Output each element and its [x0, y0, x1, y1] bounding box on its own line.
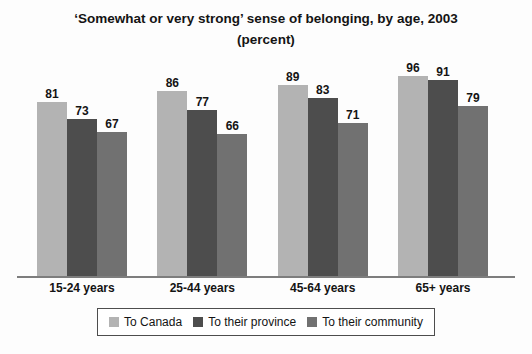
legend-label: To Canada [124, 315, 182, 329]
legend-item-to-their-province: To their province [193, 315, 296, 329]
legend-item-to-their-community: To their community [307, 315, 423, 329]
bar-to-their-community-65-years [458, 106, 488, 276]
legend-label: To their province [208, 315, 296, 329]
bar-slot-to-their-province: 73 [67, 61, 97, 276]
chart-title: ‘Somewhat or very strong’ sense of belon… [0, 8, 532, 29]
bar-slot-to-canada: 81 [37, 61, 67, 276]
bar-value-label: 77 [196, 95, 209, 109]
chart-container: ‘Somewhat or very strong’ sense of belon… [0, 0, 532, 354]
bar-groups-row: 817367867766898371969179 [0, 61, 532, 276]
legend: To CanadaTo their provinceTo their commu… [97, 308, 435, 336]
plot-area: 817367867766898371969179 15-24 years25-4… [0, 61, 532, 295]
category-label-45-64-years: 45-64 years [278, 281, 368, 295]
bar-value-label: 66 [226, 119, 239, 133]
legend-swatch-icon [193, 317, 203, 327]
bar-group-15-24-years: 817367 [37, 61, 127, 276]
bar-slot-to-canada: 86 [157, 61, 187, 276]
category-label-65-years: 65+ years [398, 281, 488, 295]
bar-slot-to-their-province: 91 [428, 61, 458, 276]
bar-slot-to-canada: 89 [278, 61, 308, 276]
bar-value-label: 67 [105, 117, 118, 131]
bar-to-their-province-15-24-years [67, 119, 97, 276]
bar-to-their-province-45-64-years [308, 98, 338, 276]
bar-slot-to-their-province: 83 [308, 61, 338, 276]
legend-swatch-icon [109, 317, 119, 327]
bar-slot-to-their-community: 67 [97, 61, 127, 276]
legend-area: To CanadaTo their provinceTo their commu… [0, 308, 532, 336]
bar-value-label: 86 [166, 76, 179, 90]
category-label-15-24-years: 15-24 years [37, 281, 127, 295]
bar-group-65-years: 969179 [398, 61, 488, 276]
bar-value-label: 81 [45, 87, 58, 101]
bar-to-their-province-65-years [428, 80, 458, 276]
legend-item-to-canada: To Canada [109, 315, 182, 329]
bar-to-canada-25-44-years [157, 91, 187, 276]
bar-value-label: 71 [346, 108, 359, 122]
bar-to-canada-15-24-years [37, 102, 67, 276]
chart-subtitle: (percent) [0, 29, 532, 50]
bar-value-label: 89 [286, 70, 299, 84]
bar-to-canada-45-64-years [278, 85, 308, 276]
bar-value-label: 79 [466, 91, 479, 105]
legend-label: To their community [322, 315, 423, 329]
category-labels-row: 15-24 years25-44 years45-64 years65+ yea… [0, 278, 532, 295]
bar-slot-to-canada: 96 [398, 61, 428, 276]
bar-to-their-community-45-64-years [338, 123, 368, 276]
bar-to-canada-65-years [398, 76, 428, 276]
bar-value-label: 83 [316, 83, 329, 97]
bar-value-label: 73 [75, 104, 88, 118]
bar-to-their-community-25-44-years [217, 134, 247, 276]
bar-slot-to-their-community: 66 [217, 61, 247, 276]
bar-value-label: 96 [406, 61, 419, 75]
bar-slot-to-their-community: 79 [458, 61, 488, 276]
bar-to-their-province-25-44-years [187, 110, 217, 276]
bar-slot-to-their-community: 71 [338, 61, 368, 276]
bar-value-label: 91 [436, 65, 449, 79]
bar-slot-to-their-province: 77 [187, 61, 217, 276]
chart-title-block: ‘Somewhat or very strong’ sense of belon… [0, 0, 532, 50]
bar-group-45-64-years: 898371 [278, 61, 368, 276]
legend-swatch-icon [307, 317, 317, 327]
category-label-25-44-years: 25-44 years [157, 281, 247, 295]
bar-group-25-44-years: 867766 [157, 61, 247, 276]
bar-to-their-community-15-24-years [97, 132, 127, 276]
